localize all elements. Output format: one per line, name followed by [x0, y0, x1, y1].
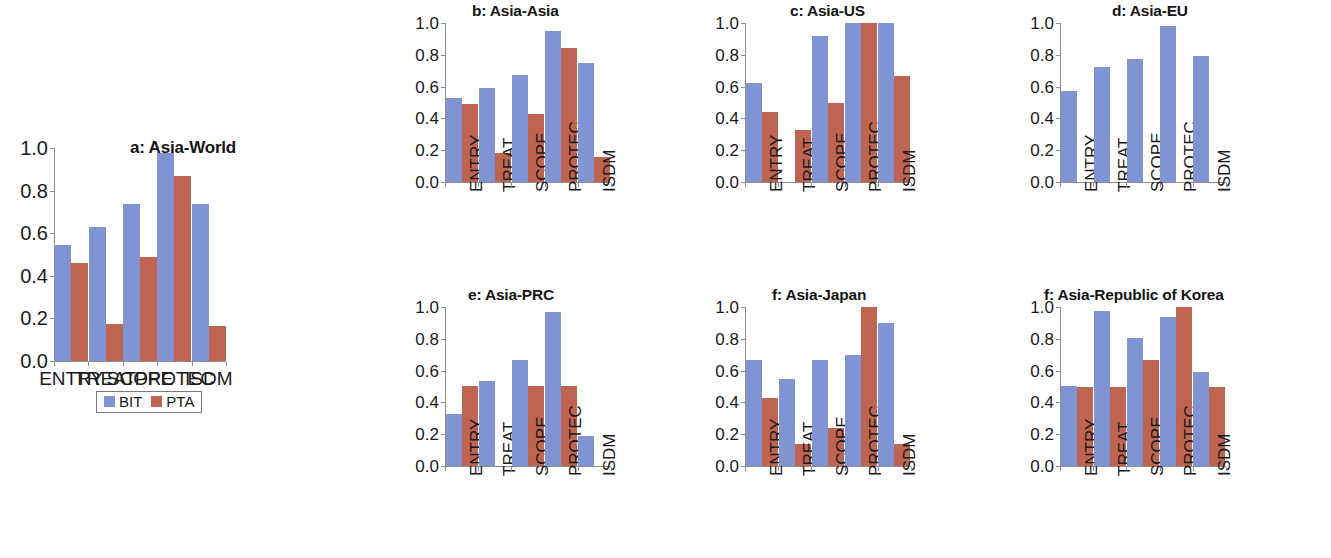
y-axis-label: 0.8 — [415, 330, 439, 347]
bar-bit-isdm — [1193, 372, 1209, 466]
x-axis-tick — [511, 183, 512, 187]
panel-title: f: Asia-Japan — [772, 286, 866, 304]
x-axis-tick — [911, 467, 912, 471]
y-axis-tick — [441, 402, 445, 403]
plot-area: 0.00.20.40.60.81.0ENTRYTREATSCOPEPROTECI… — [1060, 307, 1226, 466]
y-axis-label: 0.6 — [415, 362, 439, 379]
bar-bit-scope — [1127, 338, 1143, 466]
y-axis-label: 0.6 — [715, 78, 739, 95]
y-axis-label: 1.0 — [1030, 15, 1054, 32]
legend-item-pta[interactable]: PTA — [151, 394, 194, 409]
y-axis-label: 0.4 — [715, 394, 739, 411]
y-axis-label: 0.4 — [1030, 110, 1054, 127]
bar-bit-entry — [1061, 91, 1077, 182]
y-axis-label: 0.8 — [1030, 330, 1054, 347]
panel-title: c: Asia-US — [790, 2, 865, 20]
bar-bit-protec — [157, 153, 174, 361]
y-axis-tick — [741, 23, 745, 24]
x-axis-tick — [578, 467, 579, 471]
x-axis-tick — [745, 183, 746, 187]
bar-pta-entry — [71, 263, 88, 361]
x-axis-tick — [845, 467, 846, 471]
x-axis-tick — [578, 183, 579, 187]
y-axis-tick — [441, 55, 445, 56]
plot-area: 0.00.20.40.60.81.0ENTRYTREATSCOPEPROTECI… — [1060, 23, 1226, 182]
x-axis-line — [54, 361, 226, 362]
bar-bit-isdm — [878, 23, 894, 182]
bar-bit-scope — [123, 204, 140, 361]
plot-area: 0.00.20.40.60.81.0ENTRYTREATSCOPEPROTECI… — [745, 307, 911, 466]
y-axis-label: 1.0 — [20, 138, 48, 158]
bar-bit-scope — [512, 75, 528, 182]
y-axis-label: 0.8 — [20, 181, 48, 201]
y-axis-tick — [1056, 23, 1060, 24]
panel-asia-asia: b: Asia-Asia 0.00.20.40.60.81.0ENTRYTREA… — [400, 0, 700, 280]
x-axis-tick — [1093, 467, 1094, 471]
y-axis-tick — [441, 339, 445, 340]
y-axis-tick — [50, 148, 54, 149]
panel-asia-prc: e: Asia-PRC 0.00.20.40.60.81.0ENTRYTREAT… — [400, 282, 700, 558]
legend-swatch-pta-icon — [151, 396, 162, 407]
x-axis-tick — [811, 467, 812, 471]
bar-bit-entry — [446, 414, 462, 466]
legend-label-pta: PTA — [166, 394, 194, 409]
x-axis-tick — [845, 183, 846, 187]
x-axis-tick — [1126, 183, 1127, 187]
y-axis-tick — [441, 118, 445, 119]
x-axis-tick — [811, 183, 812, 187]
bar-bit-treat — [1094, 67, 1110, 182]
x-axis-tick — [123, 362, 124, 366]
y-axis-tick — [441, 307, 445, 308]
bar-bit-entry — [1061, 386, 1077, 466]
bar-bit-protec — [1160, 26, 1176, 182]
y-axis-label: 0.6 — [1030, 78, 1054, 95]
x-axis-tick — [226, 362, 227, 366]
bar-bit-treat — [89, 227, 106, 361]
bar-bit-treat — [779, 379, 795, 466]
y-axis-tick — [1056, 434, 1060, 435]
x-axis-tick — [445, 183, 446, 187]
x-axis-tick — [192, 362, 193, 366]
bar-bit-protec — [545, 312, 561, 466]
x-axis-category-label: ISDM — [1216, 434, 1233, 477]
panel-title: e: Asia-PRC — [468, 286, 554, 304]
y-axis-tick — [741, 307, 745, 308]
bar-bit-treat — [479, 88, 495, 182]
x-axis-tick — [157, 362, 158, 366]
y-axis-tick — [741, 150, 745, 151]
panel-title: f: Asia-Republic of Korea — [1044, 286, 1224, 304]
x-axis-tick — [1060, 183, 1061, 187]
y-axis-tick — [741, 118, 745, 119]
y-axis-label: 0.2 — [715, 426, 739, 443]
bar-pta-treat — [106, 324, 123, 361]
x-axis-tick — [611, 467, 612, 471]
y-axis-label: 0.4 — [415, 394, 439, 411]
x-axis-tick — [1060, 467, 1061, 471]
x-axis-tick — [54, 362, 55, 366]
bar-bit-protec — [845, 355, 861, 466]
bar-bit-entry — [54, 245, 71, 361]
y-axis-tick — [741, 371, 745, 372]
bar-bit-scope — [512, 360, 528, 466]
bar-bit-isdm — [1193, 56, 1209, 182]
legend-item-bit[interactable]: BIT — [104, 394, 142, 409]
legend: BIT PTA — [96, 391, 202, 413]
bar-bit-isdm — [578, 63, 594, 182]
x-axis-tick — [611, 183, 612, 187]
x-axis-tick — [1126, 467, 1127, 471]
bar-pta-scope — [140, 257, 157, 361]
bar-pta-protec — [174, 176, 191, 361]
y-axis-label: 0.2 — [715, 142, 739, 159]
y-axis-label: 0.0 — [715, 174, 739, 191]
x-axis-tick — [778, 467, 779, 471]
bar-bit-isdm — [578, 436, 594, 466]
y-axis-tick — [441, 434, 445, 435]
y-axis-label: 1.0 — [415, 299, 439, 316]
x-axis-tick — [478, 467, 479, 471]
bar-bit-entry — [446, 98, 462, 182]
panel-asia-world: a: Asia-World 0.00.20.40.60.81.0ENTRYTRE… — [0, 120, 380, 420]
y-axis-tick — [741, 87, 745, 88]
y-axis-label: 0.2 — [1030, 426, 1054, 443]
y-axis-label: 1.0 — [1030, 299, 1054, 316]
y-axis-label: 1.0 — [415, 15, 439, 32]
